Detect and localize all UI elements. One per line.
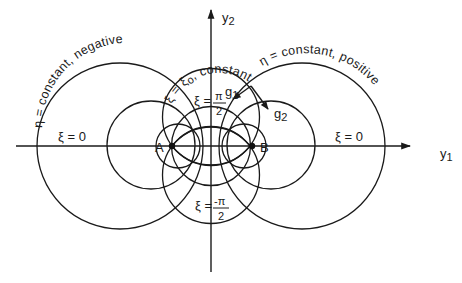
- bipolar-coordinates-diagram: A B y2 y1 ξ = 0 ξ = 0 η = constant, nega…: [0, 0, 462, 283]
- point-a-label: A: [155, 140, 164, 155]
- point-a: [169, 143, 175, 149]
- svg-text:π: π: [215, 90, 223, 102]
- svg-text:-π: -π: [214, 195, 226, 207]
- g2-label: g2: [274, 106, 287, 123]
- xi-pi-half-label: ξ = π 2: [194, 90, 226, 117]
- eta-circle-positive-small: [227, 101, 315, 189]
- xi-minus-pi-half-label: ξ = -π 2: [195, 195, 229, 222]
- diagram-canvas: A B y2 y1 ξ = 0 ξ = 0 η = constant, nega…: [0, 0, 462, 283]
- g1-label: g1: [225, 84, 238, 101]
- eta-negative-label: η = constant, negative: [31, 32, 123, 128]
- g2-vector-arrow: [251, 86, 268, 109]
- point-b-label: B: [260, 140, 269, 155]
- svg-text:2: 2: [216, 105, 222, 117]
- eta-circle-negative-small: [107, 101, 195, 189]
- svg-text:ξ =: ξ =: [195, 198, 212, 213]
- point-b: [249, 143, 255, 149]
- y2-axis-label: y2: [222, 10, 235, 27]
- xi-zero-right-label: ξ = 0: [335, 129, 363, 144]
- svg-text:2: 2: [218, 210, 224, 222]
- xi-zero-left-label: ξ = 0: [58, 129, 86, 144]
- svg-text:ξ =: ξ =: [194, 93, 211, 108]
- y1-axis-label: y1: [440, 146, 453, 163]
